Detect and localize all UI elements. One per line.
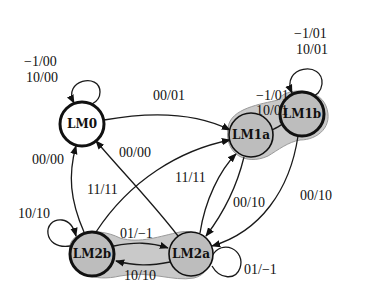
label-lm2b-to-lm2a: 01/−1: [120, 226, 153, 241]
node-label-lm2b: LM2b: [73, 247, 111, 261]
edge-lm2a-to-lm1a: [200, 154, 236, 233]
label-lm2b-loop: 10/10: [18, 206, 50, 221]
label-lm1a-to-lm1b-2: 10/01: [256, 103, 288, 118]
label-lm1b-to-lm2a: 00/10: [300, 188, 332, 203]
edge-lm0-to-lm1a: [104, 115, 230, 130]
label-lm2b-to-lm1a: 11/11: [87, 182, 118, 197]
label-lm0-loop-2: 10/00: [26, 70, 58, 85]
edge-lm2b-to-lm0: [71, 146, 84, 232]
label-lm1b-loop-2: 10/01: [296, 42, 328, 57]
node-label-lm2a: LM2a: [172, 247, 210, 261]
node-lm2b: LM2b: [70, 232, 114, 276]
state-diagram: LM0 LM1a LM1b LM2b LM2a −1/00 10/00 00/0…: [0, 0, 370, 298]
label-lm1a-to-lm1b-1: −1/01: [256, 88, 289, 103]
node-lm2a: LM2a: [169, 232, 213, 276]
label-lm2a-loop: 01/−1: [244, 262, 277, 277]
label-lm0-to-lm1a: 00/01: [153, 88, 185, 103]
label-lm2b-to-lm0: 00/00: [32, 152, 64, 167]
node-label-lm0: LM0: [67, 117, 97, 131]
node-label-lm1a: LM1a: [232, 128, 270, 142]
label-lm2a-to-lm2b: 10/10: [124, 268, 156, 283]
label-lm1b-loop-1: −1/01: [294, 26, 327, 41]
label-lm0-loop-1: −1/00: [24, 54, 57, 69]
node-lm1a: LM1a: [229, 113, 273, 157]
edge-lm0-loop: [72, 81, 100, 104]
label-lm2a-to-lm1a: 11/11: [175, 170, 206, 185]
node-label-lm1b: LM1b: [283, 107, 321, 121]
label-lm2a-to-lm0: 00/00: [119, 145, 151, 160]
edge-lm2a-loop: [212, 247, 241, 277]
node-lm0: LM0: [60, 102, 104, 146]
label-lm1a-to-lm2a: 00/10: [233, 195, 265, 210]
